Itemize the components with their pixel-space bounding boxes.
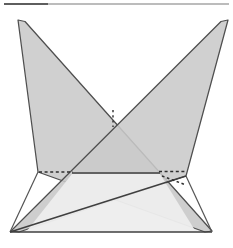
geometry-diagram <box>0 0 233 248</box>
figure-canvas <box>0 0 233 248</box>
